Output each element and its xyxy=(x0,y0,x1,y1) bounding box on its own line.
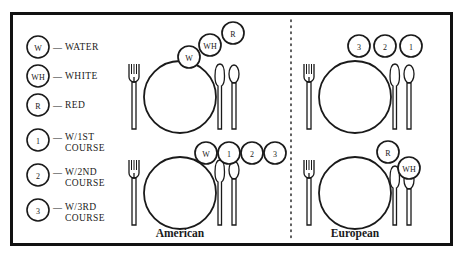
panel-caption-european: European xyxy=(331,227,380,240)
glass-label: R xyxy=(385,149,391,158)
legend-item-first-course: 1 — W/1ST COURSE xyxy=(27,129,105,153)
glass-label: 1 xyxy=(227,150,231,159)
legend-label: WATER xyxy=(65,42,99,52)
legend-item-third-course: 3 — W/3RD COURSE xyxy=(27,199,105,223)
place-setting-diagram: W — WATER WH — WHITE R — RED 1 — W/1ST C… xyxy=(0,0,463,262)
legend-symbol: 2 xyxy=(36,172,40,181)
glass-label: 1 xyxy=(409,43,413,52)
legend-dash: — xyxy=(52,71,63,81)
legend-item-second-course: 2 — W/2ND COURSE xyxy=(27,164,105,188)
glass-label: WH xyxy=(402,165,416,174)
legend-dash: — xyxy=(52,202,63,212)
legend-dash: — xyxy=(52,132,63,142)
glass-label: R xyxy=(230,30,236,39)
legend-label: WHITE xyxy=(65,71,98,81)
plate-icon xyxy=(144,157,216,229)
glass-group: 3 2 1 xyxy=(348,35,422,57)
legend-label: RED xyxy=(65,100,85,110)
glass-label: 3 xyxy=(273,150,277,159)
panel-caption-american: American xyxy=(156,227,205,239)
glass-label: W xyxy=(202,150,210,159)
legend-dash: — xyxy=(52,42,63,52)
glass-label: 2 xyxy=(383,43,387,52)
legend-label-line2: COURSE xyxy=(65,143,105,153)
glass-label: W xyxy=(185,54,193,63)
legend-symbol: WH xyxy=(31,73,45,82)
legend-label: W/2ND xyxy=(65,167,97,177)
legend-dash: — xyxy=(52,100,63,110)
legend-symbol: R xyxy=(35,102,41,111)
plate-icon xyxy=(144,61,216,133)
legend-label-line2: COURSE xyxy=(65,213,105,223)
legend-symbol: W xyxy=(34,44,42,53)
legend-symbol: 3 xyxy=(36,207,40,216)
plate-icon xyxy=(319,157,391,229)
legend-label: W/1ST xyxy=(65,132,94,142)
legend-label: W/3RD xyxy=(65,202,97,212)
diagram-canvas: W — WATER WH — WHITE R — RED 1 — W/1ST C… xyxy=(0,0,463,262)
glass-label: 2 xyxy=(250,150,254,159)
glass-label: WH xyxy=(203,42,217,51)
legend-label-line2: COURSE xyxy=(65,178,105,188)
legend-dash: — xyxy=(52,167,63,177)
glass-label: 3 xyxy=(357,43,361,52)
plate-icon xyxy=(319,61,391,133)
legend-symbol: 1 xyxy=(36,137,40,146)
